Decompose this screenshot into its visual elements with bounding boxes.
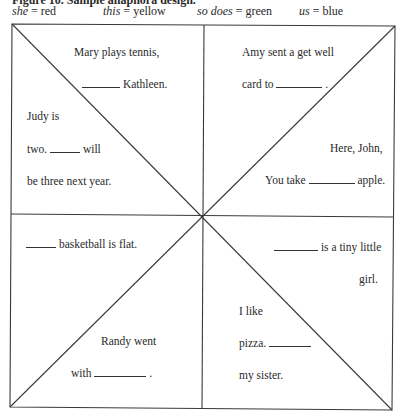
br-lower-line1: I like [239, 304, 263, 318]
br-lower-line2: pizza. [239, 336, 311, 350]
tr-upper-line1: Amy sent a get well [242, 45, 334, 59]
tr-lower-line1: Here, John, [330, 141, 383, 155]
tl-upper-line1: Mary plays tennis, [74, 45, 159, 59]
tl-lower-line1: Judy is [27, 109, 59, 123]
anaphora-grid [0, 0, 406, 417]
bl-upper-line1: basketball is flat. [26, 237, 137, 251]
answer-blank[interactable] [276, 78, 322, 88]
br-upper-line2: girl. [359, 272, 378, 286]
bl-lower-line2: with . [71, 366, 152, 380]
answer-blank[interactable] [274, 241, 318, 251]
answer-blank[interactable] [26, 238, 56, 248]
br-lower-line3: my sister. [239, 368, 283, 382]
tr-lower-line2: You take apple. [265, 173, 385, 187]
tl-upper-line2: Kathleen. [82, 77, 167, 91]
tr-upper-line2: card to . [242, 77, 328, 91]
answer-blank[interactable] [82, 78, 120, 88]
answer-blank[interactable] [269, 337, 311, 347]
br-upper-line1: is a tiny little [274, 240, 381, 254]
bl-lower-line1: Randy went [101, 334, 156, 348]
answer-blank[interactable] [50, 143, 80, 153]
answer-blank[interactable] [309, 174, 355, 184]
tl-lower-line2: two. will [27, 142, 101, 156]
answer-blank[interactable] [94, 367, 146, 377]
tl-lower-line3: be three next year. [27, 174, 111, 188]
